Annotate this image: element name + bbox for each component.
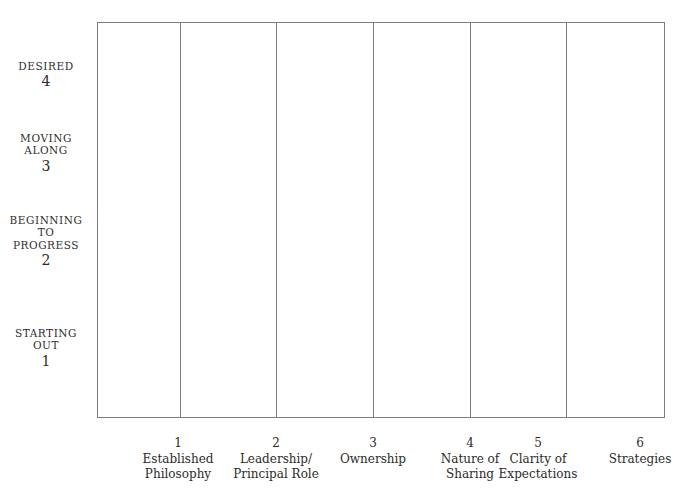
y-axis-level-starting-out-value: 1 <box>0 353 92 370</box>
y-axis-level-desired-line1: DESIRED <box>0 60 92 72</box>
plot-area-frame <box>97 22 665 418</box>
x-axis-category-6-label: Strategies <box>565 452 690 467</box>
column-divider-2 <box>276 22 277 418</box>
y-axis-level-moving-along-value: 3 <box>0 158 92 175</box>
y-axis-level-starting-out: STARTING OUT 1 <box>0 327 92 369</box>
y-axis-level-desired-value: 4 <box>0 73 92 90</box>
assessment-grid-chart: DESIRED 4 MOVING ALONG 3 BEGINNING TO PR… <box>0 0 690 498</box>
x-axis-category-strategies: 6 Strategies <box>565 436 690 467</box>
x-axis-categories: 1 Established Philosophy 2 Leadership/ P… <box>0 436 690 496</box>
y-axis-level-beginning-to-progress-line1: BEGINNING <box>0 214 92 226</box>
y-axis-level-desired: DESIRED 4 <box>0 60 92 90</box>
y-axis-scale: DESIRED 4 MOVING ALONG 3 BEGINNING TO PR… <box>0 22 92 418</box>
column-divider-1 <box>180 22 181 418</box>
y-axis-level-moving-along-line2: ALONG <box>0 144 92 156</box>
y-axis-level-starting-out-line1: STARTING <box>0 327 92 339</box>
column-divider-4 <box>470 22 471 418</box>
y-axis-level-beginning-to-progress-line3: PROGRESS <box>0 239 92 251</box>
y-axis-level-beginning-to-progress: BEGINNING TO PROGRESS 2 <box>0 214 92 269</box>
column-divider-5 <box>566 22 567 418</box>
x-axis-category-6-number: 6 <box>565 436 690 451</box>
y-axis-level-beginning-to-progress-value: 2 <box>0 252 92 269</box>
y-axis-level-moving-along: MOVING ALONG 3 <box>0 132 92 174</box>
y-axis-level-beginning-to-progress-line2: TO <box>0 226 92 238</box>
y-axis-level-starting-out-line2: OUT <box>0 339 92 351</box>
clipped-top-caption <box>0 0 690 1</box>
y-axis-level-moving-along-line1: MOVING <box>0 132 92 144</box>
column-divider-3 <box>373 22 374 418</box>
